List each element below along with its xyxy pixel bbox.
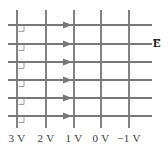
right-angle-mark-3 xyxy=(18,63,24,69)
right-angle-mark-4 xyxy=(18,81,24,87)
right-angle-marks-group xyxy=(18,26,24,123)
equipotential-label-0v: 0 V xyxy=(93,132,110,144)
equipotential-lines-group xyxy=(17,10,129,128)
field-vector-label: E xyxy=(153,38,161,50)
field-arrowhead-4 xyxy=(63,77,72,84)
diagram-canvas xyxy=(0,0,168,151)
field-arrowhead-5 xyxy=(63,95,72,102)
right-angle-mark-5 xyxy=(18,99,24,105)
right-angle-mark-2 xyxy=(18,45,24,51)
equipotential-field-diagram: 3 V 2 V 1 V 0 V −1 V E xyxy=(0,0,168,151)
field-lines-group xyxy=(8,25,152,116)
right-angle-mark-6 xyxy=(18,117,24,123)
equipotential-label-2v: 2 V xyxy=(38,132,55,144)
equipotential-label-3v: 3 V xyxy=(9,132,26,144)
field-arrowhead-2 xyxy=(63,41,72,48)
vector-arrow-icon xyxy=(153,38,161,42)
field-arrowhead-1 xyxy=(63,22,72,29)
equipotential-label-minus1v: −1 V xyxy=(117,132,140,144)
field-arrowheads-group xyxy=(63,22,72,120)
field-arrowhead-3 xyxy=(63,59,72,66)
equipotential-label-1v: 1 V xyxy=(66,132,83,144)
right-angle-mark-1 xyxy=(18,26,24,32)
field-arrowhead-6 xyxy=(63,113,72,120)
